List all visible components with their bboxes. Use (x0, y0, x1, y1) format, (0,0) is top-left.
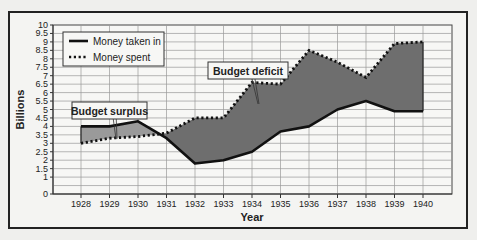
x-tick-label: 1930 (128, 199, 148, 209)
x-tick-label: 1938 (356, 199, 376, 209)
x-tick-label: 1929 (99, 199, 119, 209)
legend-label-taken-in: Money taken in (93, 36, 161, 47)
x-tick-label: 1933 (213, 199, 233, 209)
x-tick-label: 1928 (71, 199, 91, 209)
legend: Money taken inMoney spent (63, 32, 164, 66)
x-tick-label: 1935 (270, 199, 290, 209)
y-axis: 011.522.533.544.555.566.577.588.599.510 (35, 20, 53, 199)
x-tick-label: 1932 (185, 199, 205, 209)
y-axis-label: Billions (14, 90, 26, 130)
y-tick-label: 0 (43, 189, 48, 199)
budget-deficit-callout-label: Budget deficit (213, 65, 284, 77)
x-tick-label: 1931 (156, 199, 176, 209)
legend-label-spent: Money spent (93, 52, 150, 63)
budget-chart: 011.522.533.544.555.566.577.588.599.510B… (0, 0, 477, 240)
x-axis: 1928192919301931193219331934193519361937… (53, 194, 452, 209)
x-axis-label: Year (240, 211, 264, 223)
x-tick-label: 1934 (242, 199, 262, 209)
x-tick-label: 1936 (299, 199, 319, 209)
budget-surplus-callout-label: Budget surplus (71, 105, 148, 117)
x-tick-label: 1940 (413, 199, 433, 209)
x-tick-label: 1937 (327, 199, 347, 209)
x-tick-label: 1939 (384, 199, 404, 209)
y-tick-label: 10 (38, 20, 48, 30)
